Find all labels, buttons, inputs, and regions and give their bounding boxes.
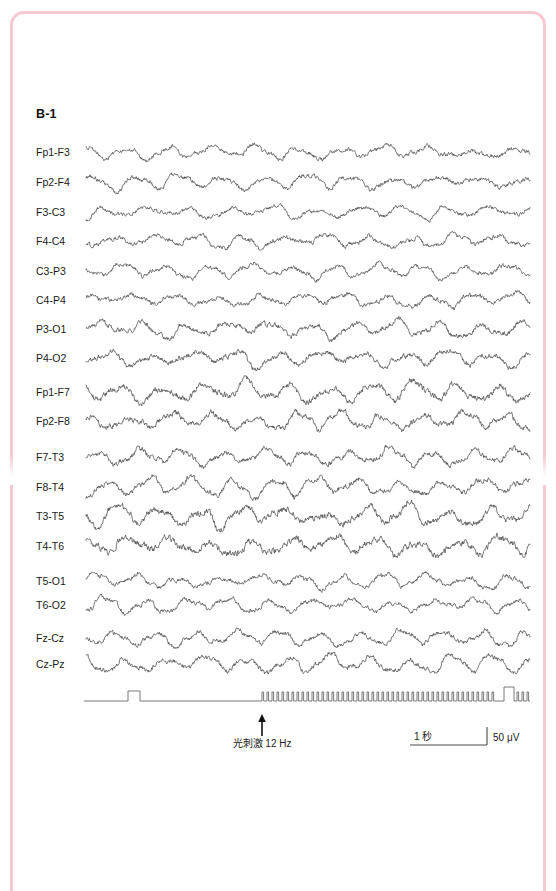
- channel-label: T6-O2: [36, 599, 66, 611]
- eeg-trace: [86, 290, 530, 310]
- eeg-trace-group: [86, 143, 530, 674]
- eeg-trace: [86, 261, 530, 283]
- channel-label: C3-P3: [36, 265, 66, 277]
- eeg-trace: [86, 409, 530, 433]
- eeg-trace: [86, 594, 530, 615]
- channel-label: Fz-Cz: [36, 632, 64, 644]
- eeg-trace: [86, 652, 530, 674]
- eeg-trace: [86, 475, 530, 501]
- stimulus-arrow-head-icon: [258, 714, 266, 722]
- stimulus-annotation-label: 光刺激 12 Hz: [233, 737, 292, 749]
- channel-label: F8-T4: [36, 481, 64, 493]
- eeg-trace: [86, 231, 530, 250]
- scale-bar-group: 1 秒50 μV: [410, 727, 520, 745]
- eeg-trace: [86, 572, 530, 593]
- channel-label: Fp2-F4: [36, 176, 70, 188]
- eeg-trace: [86, 203, 530, 222]
- eeg-trace: [86, 628, 530, 649]
- channel-label: F4-C4: [36, 235, 65, 247]
- amplitude-scale-label: 50 μV: [493, 732, 520, 743]
- eeg-trace: [86, 316, 530, 341]
- stimulus-marker-channel: [84, 687, 530, 701]
- channel-label-group: Fp1-F3Fp2-F4F3-C3F4-C4C3-P3C4-P4P3-O1P4-…: [36, 146, 70, 670]
- eeg-trace: [86, 533, 530, 558]
- channel-label: Fp1-F7: [36, 386, 70, 398]
- eeg-trace: [86, 143, 530, 162]
- time-scale-label: 1 秒: [414, 730, 432, 742]
- channel-label: T4-T6: [36, 540, 64, 552]
- channel-label: T5-O1: [36, 575, 66, 587]
- channel-label: Fp1-F3: [36, 146, 70, 158]
- channel-label: C4-P4: [36, 294, 66, 306]
- channel-label: Cz-Pz: [36, 658, 65, 670]
- eeg-trace: [86, 173, 530, 194]
- eeg-trace: [86, 500, 530, 532]
- stimulus-marker-trace: [84, 687, 530, 701]
- annotation-group: 光刺激 12 Hz: [233, 714, 292, 749]
- eeg-trace: [86, 349, 530, 370]
- channel-label: P4-O2: [36, 352, 67, 364]
- channel-label: Fp2-F8: [36, 415, 70, 427]
- channel-label: P3-O1: [36, 323, 67, 335]
- channel-label: T3-T5: [36, 510, 64, 522]
- eeg-trace: [86, 376, 530, 406]
- channel-label: F7-T3: [36, 451, 64, 463]
- channel-label: F3-C3: [36, 206, 65, 218]
- eeg-trace: [86, 445, 530, 469]
